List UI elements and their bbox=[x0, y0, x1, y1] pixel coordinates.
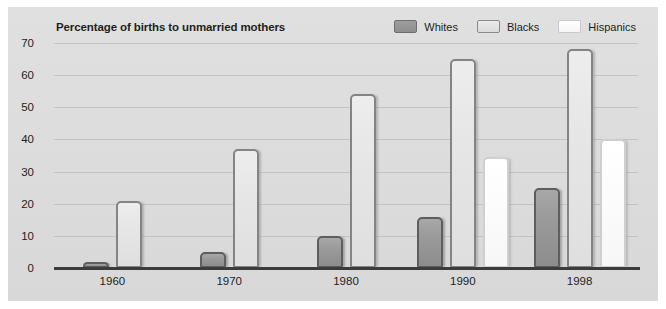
gridline bbox=[54, 172, 638, 173]
y-axis-tick-label: 20 bbox=[0, 198, 34, 210]
bar-blacks-1990 bbox=[450, 59, 476, 268]
legend-label: Hispanics bbox=[588, 21, 636, 33]
gridline bbox=[54, 43, 638, 44]
y-axis-tick-label: 30 bbox=[0, 166, 34, 178]
y-axis-tick-label: 10 bbox=[0, 230, 34, 242]
legend-item-blacks[interactable]: Blacks bbox=[477, 20, 539, 33]
bar-whites-1998 bbox=[534, 188, 560, 268]
legend-swatch-hispanics-icon bbox=[558, 20, 581, 33]
x-axis-tick-label: 1998 bbox=[567, 275, 593, 287]
y-axis-tick-label: 0 bbox=[0, 262, 34, 274]
bar-hispanics-1998 bbox=[600, 139, 626, 268]
bar-hispanics-1990 bbox=[483, 157, 509, 268]
chart-legend: WhitesBlacksHispanics bbox=[394, 20, 636, 33]
bar-blacks-1980 bbox=[350, 94, 376, 268]
y-axis-tick-label: 70 bbox=[0, 37, 34, 49]
x-axis-tick-label: 1960 bbox=[100, 275, 126, 287]
x-axis-tick-label: 1990 bbox=[450, 275, 476, 287]
bar-whites-1980 bbox=[317, 236, 343, 268]
x-axis-tick-label: 1980 bbox=[333, 275, 359, 287]
legend-swatch-blacks-icon bbox=[477, 20, 500, 33]
x-axis-line bbox=[54, 267, 640, 270]
y-axis-tick-label: 50 bbox=[0, 101, 34, 113]
legend-item-whites[interactable]: Whites bbox=[394, 20, 458, 33]
bar-blacks-1998 bbox=[567, 49, 593, 268]
y-axis-tick-label: 40 bbox=[0, 133, 34, 145]
bar-blacks-1960 bbox=[116, 201, 142, 269]
bar-whites-1970 bbox=[200, 252, 226, 268]
plot-area bbox=[54, 43, 638, 268]
bar-whites-1990 bbox=[417, 217, 443, 268]
chart-panel: Percentage of births to unmarried mother… bbox=[8, 7, 658, 301]
gridline bbox=[54, 107, 638, 108]
y-axis-tick-label: 60 bbox=[0, 69, 34, 81]
legend-label: Whites bbox=[424, 21, 458, 33]
legend-item-hispanics[interactable]: Hispanics bbox=[558, 20, 636, 33]
gridline bbox=[54, 139, 638, 140]
bar-blacks-1970 bbox=[233, 149, 259, 268]
legend-swatch-whites-icon bbox=[394, 20, 417, 33]
legend-label: Blacks bbox=[507, 21, 539, 33]
chart-title: Percentage of births to unmarried mother… bbox=[56, 21, 285, 33]
chart-figure: Percentage of births to unmarried mother… bbox=[0, 0, 666, 309]
gridline bbox=[54, 75, 638, 76]
x-axis-tick-label: 1970 bbox=[216, 275, 242, 287]
